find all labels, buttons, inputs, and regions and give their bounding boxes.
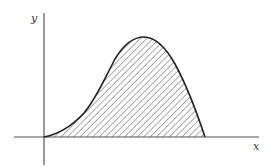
y-axis-label: y: [30, 12, 38, 25]
area-under-curve-diagram: y x: [0, 0, 271, 167]
x-axis-label: x: [253, 140, 260, 153]
